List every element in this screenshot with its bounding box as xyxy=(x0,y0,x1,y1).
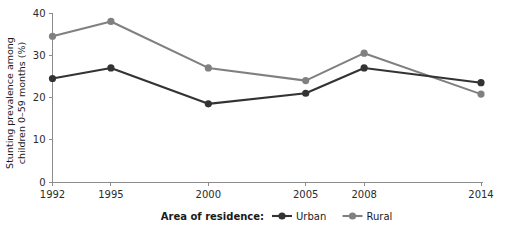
data-point-marker xyxy=(49,75,56,82)
data-point-marker xyxy=(477,79,484,86)
x-tick-label: 2005 xyxy=(293,189,318,200)
legend-item-rural[interactable]: Rural xyxy=(343,211,393,222)
data-point-marker xyxy=(107,64,114,71)
y-axis-title-line-2: children 0–59 months (%) xyxy=(16,42,27,164)
legend-marker-urban xyxy=(278,212,285,219)
stunting-prevalence-line-chart: Stunting prevalence among children 0–59 … xyxy=(0,0,508,232)
y-tick-label: 0 xyxy=(39,177,45,188)
data-series-group xyxy=(49,18,485,108)
y-tick-label: 40 xyxy=(33,8,46,19)
series-line-rural xyxy=(53,21,482,94)
series-line-urban xyxy=(53,68,482,104)
data-point-marker xyxy=(205,100,212,107)
chart-canvas: Stunting prevalence among children 0–59 … xyxy=(0,0,508,232)
data-point-marker xyxy=(477,91,484,98)
x-tick-label: 2014 xyxy=(468,189,493,200)
x-tick-label: 2008 xyxy=(351,189,376,200)
x-tick-label: 2000 xyxy=(196,189,221,200)
y-tick-label: 30 xyxy=(33,50,46,61)
legend-title: Area of residence: xyxy=(161,211,264,222)
data-point-marker xyxy=(361,50,368,57)
data-point-marker xyxy=(107,18,114,25)
y-tick-label: 10 xyxy=(33,134,46,145)
y-tick-label: 20 xyxy=(33,92,46,103)
data-point-marker xyxy=(302,77,309,84)
legend-label-rural: Rural xyxy=(367,211,393,222)
data-point-marker xyxy=(361,64,368,71)
legend-item-urban[interactable]: Urban xyxy=(272,211,326,222)
y-axis-title-line-1: Stunting prevalence among xyxy=(4,37,15,169)
chart-legend: Area of residence:UrbanRural xyxy=(161,211,393,222)
series-rural xyxy=(49,18,485,98)
legend-label-urban: Urban xyxy=(296,211,326,222)
data-point-marker xyxy=(205,64,212,71)
data-point-marker xyxy=(49,33,56,40)
data-point-marker xyxy=(302,90,309,97)
legend-marker-rural xyxy=(349,212,356,219)
x-tick-label: 1995 xyxy=(98,189,123,200)
y-axis-title: Stunting prevalence among children 0–59 … xyxy=(4,37,27,169)
x-axis: 199219952000200520082014 xyxy=(40,182,494,200)
x-tick-label: 1992 xyxy=(40,189,65,200)
series-urban xyxy=(49,64,485,107)
